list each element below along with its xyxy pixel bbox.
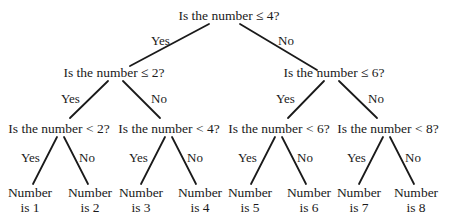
question-lt8: Is the number < 8? [337,122,438,136]
question-lt2: Is the number < 2? [8,122,109,136]
leaf-6: Number is 6 [287,185,331,215]
question-le6: Is the number ≤ 6? [283,66,384,80]
leaf-2-line2: is 2 [68,200,112,215]
leaf-1: Number is 1 [8,185,52,215]
leaf-8-line1: Number [394,185,438,200]
leaf-7: Number is 7 [337,185,381,215]
leaf-8: Number is 8 [394,185,438,215]
edge-label-no: No [151,92,167,105]
leaf-3: Number is 3 [119,185,163,215]
leaf-2: Number is 2 [68,185,112,215]
edge-label-yes: Yes [238,151,257,164]
edge-label-yes: Yes [151,34,170,47]
leaf-6-line2: is 6 [287,200,331,215]
leaf-5: Number is 5 [228,185,272,215]
edge-label-no: No [278,34,294,47]
question-root: Is the number ≤ 4? [178,9,279,23]
leaf-2-line1: Number [68,185,112,200]
leaf-3-line1: Number [119,185,163,200]
edge-label-yes: Yes [21,151,40,164]
edge-label-yes: Yes [61,92,80,105]
question-le2: Is the number ≤ 2? [63,66,164,80]
edge-label-no: No [368,92,384,105]
edge-label-yes: Yes [129,151,148,164]
leaf-6-line1: Number [287,185,331,200]
leaf-1-line1: Number [8,185,52,200]
edge-label-no: No [187,151,203,164]
leaf-5-line2: is 5 [228,200,272,215]
leaf-1-line2: is 1 [8,200,52,215]
leaf-4: Number is 4 [178,185,222,215]
leaf-5-line1: Number [228,185,272,200]
leaf-4-line2: is 4 [178,200,222,215]
question-lt4: Is the number < 4? [118,122,219,136]
leaf-8-line2: is 8 [394,200,438,215]
edge-label-no: No [405,151,421,164]
edge-label-no: No [297,151,313,164]
edge-label-no: No [79,151,95,164]
leaf-7-line2: is 7 [337,200,381,215]
edge-label-yes: Yes [347,151,366,164]
leaf-3-line2: is 3 [119,200,163,215]
leaf-7-line1: Number [337,185,381,200]
question-lt6: Is the number < 6? [228,122,329,136]
leaf-4-line1: Number [178,185,222,200]
edge-label-yes: Yes [276,92,295,105]
